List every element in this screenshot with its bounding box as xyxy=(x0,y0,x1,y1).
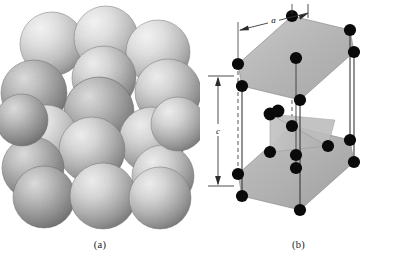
atom-midplane xyxy=(272,105,285,118)
atom xyxy=(236,80,248,92)
c-dimension: c xyxy=(208,76,234,186)
unit-cell-svg: a c xyxy=(200,0,397,232)
atom-midplane xyxy=(264,146,276,158)
c-arrowhead-bottom xyxy=(215,176,221,186)
atom xyxy=(286,120,298,132)
sphere xyxy=(129,167,191,229)
atom-midplane xyxy=(290,149,302,161)
c-dimension-label: c xyxy=(216,126,220,136)
sphere xyxy=(70,163,136,229)
atom xyxy=(294,204,306,216)
atom xyxy=(348,46,360,58)
caption-panel-a: (a) xyxy=(0,239,200,250)
atom xyxy=(344,134,356,146)
panel-hard-sphere-model: (a) xyxy=(0,0,200,274)
atom-midplane xyxy=(322,140,334,152)
a-dimension-label: a xyxy=(271,15,276,25)
sphere xyxy=(13,166,75,228)
a-arrowhead-left xyxy=(239,26,249,31)
panel-reduced-sphere-unit-cell: a c (b) xyxy=(200,0,397,274)
atom-face-center xyxy=(290,52,302,64)
c-arrowhead-top xyxy=(215,77,221,87)
atom xyxy=(348,156,360,168)
atom xyxy=(344,24,356,36)
atom-face-center xyxy=(290,162,302,174)
unit-cell-artwork: a c xyxy=(200,0,397,232)
atom xyxy=(294,94,306,106)
atom xyxy=(232,168,244,180)
hard-sphere-artwork xyxy=(0,0,200,232)
sphere xyxy=(0,94,48,146)
figure-root: (a) xyxy=(0,0,397,274)
atom xyxy=(236,190,248,202)
hard-sphere-svg xyxy=(0,0,200,232)
caption-panel-b: (b) xyxy=(200,239,397,250)
